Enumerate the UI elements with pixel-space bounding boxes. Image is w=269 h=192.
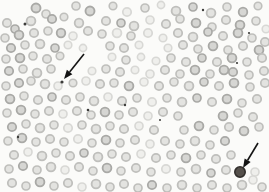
red-blood-cell bbox=[48, 93, 56, 101]
red-blood-cell bbox=[152, 154, 160, 162]
red-blood-cell bbox=[227, 151, 235, 159]
red-blood-cell bbox=[106, 183, 114, 191]
red-blood-cell bbox=[162, 20, 170, 28]
red-blood-cell bbox=[208, 181, 216, 189]
red-blood-cell bbox=[24, 148, 32, 156]
red-blood-cell bbox=[29, 52, 37, 60]
red-blood-cell bbox=[47, 65, 55, 73]
red-blood-cell bbox=[1, 34, 9, 42]
red-blood-cell bbox=[86, 7, 95, 16]
red-blood-cell bbox=[223, 3, 231, 11]
red-blood-cell bbox=[251, 168, 259, 176]
red-blood-cell bbox=[221, 137, 229, 145]
red-blood-cell bbox=[41, 80, 50, 89]
red-blood-cell bbox=[21, 41, 29, 49]
red-blood-cell bbox=[200, 78, 208, 86]
red-blood-cell bbox=[127, 32, 135, 40]
red-blood-cell bbox=[122, 56, 130, 64]
red-blood-cell bbox=[98, 30, 106, 38]
red-blood-cell bbox=[116, 139, 124, 147]
red-blood-cell bbox=[147, 168, 155, 176]
red-blood-cell bbox=[238, 181, 247, 190]
red-blood-cell bbox=[79, 44, 86, 51]
red-blood-cell bbox=[30, 29, 38, 37]
red-blood-cell bbox=[10, 151, 18, 159]
red-blood-cell bbox=[206, 70, 214, 78]
red-blood-cell bbox=[207, 9, 216, 18]
red-blood-cell bbox=[88, 139, 96, 147]
red-blood-cell bbox=[5, 165, 13, 173]
red-blood-cell bbox=[132, 164, 140, 172]
red-blood-cell bbox=[195, 122, 204, 131]
red-blood-cell bbox=[19, 162, 27, 170]
red-blood-cell bbox=[94, 153, 103, 162]
red-blood-cell bbox=[137, 53, 144, 60]
marked-dark-cell bbox=[235, 167, 245, 177]
red-blood-cell bbox=[32, 138, 40, 146]
red-blood-cell bbox=[109, 2, 117, 10]
red-blood-cell bbox=[191, 66, 200, 75]
red-blood-cell bbox=[3, 109, 11, 117]
red-blood-cell bbox=[245, 71, 253, 79]
red-blood-cell bbox=[82, 77, 90, 85]
red-blood-cell bbox=[239, 8, 248, 17]
red-blood-cell bbox=[152, 57, 160, 65]
red-blood-cell bbox=[134, 184, 142, 192]
red-blood-cell bbox=[32, 4, 41, 13]
red-blood-cell bbox=[194, 45, 202, 53]
red-blood-cell bbox=[102, 17, 110, 25]
red-blood-cell bbox=[146, 70, 154, 78]
red-blood-cell bbox=[60, 138, 68, 146]
red-blood-cell bbox=[206, 141, 214, 149]
red-blood-cell bbox=[215, 82, 223, 90]
red-blood-cell bbox=[246, 83, 254, 91]
red-blood-cell bbox=[15, 31, 24, 40]
red-blood-cell bbox=[69, 79, 77, 87]
red-blood-cell bbox=[198, 54, 206, 62]
red-blood-cell bbox=[179, 41, 187, 49]
red-blood-cell bbox=[129, 108, 137, 116]
red-blood-cell bbox=[20, 92, 28, 100]
red-blood-cell bbox=[185, 82, 194, 91]
red-blood-cell bbox=[189, 3, 197, 11]
red-blood-cell bbox=[57, 29, 66, 38]
red-blood-cell bbox=[108, 53, 116, 61]
red-blood-cell bbox=[164, 44, 172, 52]
red-blood-cell bbox=[148, 98, 156, 106]
red-blood-cell bbox=[223, 184, 231, 192]
red-blood-cell bbox=[33, 69, 42, 78]
red-blood-cell bbox=[210, 126, 218, 134]
red-blood-cell bbox=[73, 107, 81, 115]
red-blood-cell bbox=[176, 15, 184, 23]
red-blood-cell bbox=[36, 40, 45, 49]
red-blood-cell bbox=[66, 152, 74, 160]
red-blood-cell bbox=[193, 94, 201, 102]
red-blood-cell bbox=[69, 32, 77, 40]
red-blood-cell bbox=[170, 78, 178, 86]
red-blood-cell bbox=[92, 125, 101, 134]
red-blood-cell bbox=[224, 46, 232, 54]
red-blood-cell bbox=[146, 16, 154, 24]
red-blood-cell bbox=[106, 122, 114, 130]
red-blood-cell bbox=[172, 7, 181, 16]
red-blood-cell bbox=[178, 181, 187, 190]
red-blood-cell bbox=[89, 167, 97, 175]
red-blood-cell bbox=[234, 29, 243, 38]
red-blood-cell bbox=[167, 54, 175, 62]
red-blood-cell bbox=[90, 97, 99, 106]
red-blood-cell bbox=[176, 70, 184, 78]
platelet-speck bbox=[87, 109, 90, 112]
red-blood-cell bbox=[159, 34, 167, 42]
red-blood-cell bbox=[60, 13, 68, 21]
red-blood-cell bbox=[222, 166, 230, 174]
red-blood-cell bbox=[133, 94, 141, 102]
red-blood-cell bbox=[75, 163, 83, 171]
red-blood-cell bbox=[110, 79, 118, 87]
red-blood-cell bbox=[56, 52, 64, 60]
annotation-arrow-head bbox=[243, 158, 251, 168]
red-blood-cell bbox=[43, 55, 51, 63]
red-blood-cell bbox=[260, 67, 268, 75]
red-blood-cell bbox=[189, 33, 198, 42]
red-blood-cell bbox=[225, 123, 233, 131]
red-blood-cell bbox=[137, 150, 145, 158]
